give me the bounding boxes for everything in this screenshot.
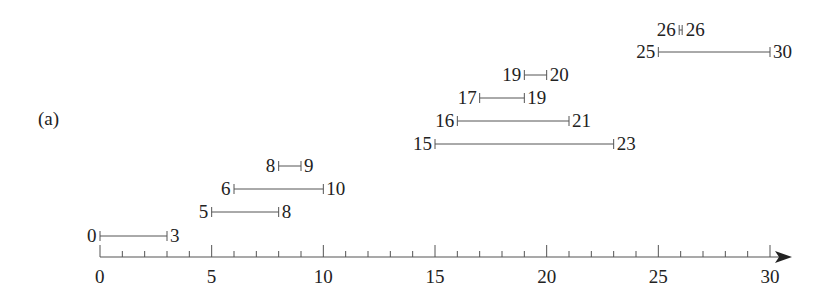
interval-end-label: 8: [282, 202, 292, 221]
interval-end-label: 26: [686, 20, 705, 39]
interval-start-label: 8: [266, 156, 276, 175]
interval-end-label: 9: [304, 156, 314, 175]
interval-start-label: 17: [458, 88, 477, 107]
interval-end-label: 30: [773, 42, 792, 61]
interval-start-label: 26: [657, 20, 676, 39]
axis-tick-label: 30: [761, 267, 780, 286]
interval-end-label: 21: [572, 111, 591, 130]
axis-tick-label: 10: [314, 267, 333, 286]
axis-tick-label: 5: [207, 267, 217, 286]
interval-diagram: (a) 051015202530035861089152316211719192…: [0, 0, 835, 301]
interval-start-label: 25: [636, 42, 655, 61]
interval-start-label: 6: [221, 179, 231, 198]
axis-tick-label: 0: [95, 267, 105, 286]
axis-tick-label: 20: [537, 267, 556, 286]
interval-start-label: 19: [502, 65, 521, 84]
axis-tick-label: 15: [426, 267, 445, 286]
interval-end-label: 3: [170, 226, 180, 245]
interval-start-label: 15: [413, 134, 432, 153]
interval-end-label: 19: [527, 88, 546, 107]
interval-start-label: 5: [199, 202, 209, 221]
interval-start-label: 16: [435, 111, 454, 130]
axis-tick-label: 25: [649, 267, 668, 286]
interval-end-label: 10: [326, 179, 345, 198]
interval-end-label: 20: [550, 65, 569, 84]
interval-end-label: 23: [617, 134, 636, 153]
interval-start-label: 0: [87, 226, 97, 245]
